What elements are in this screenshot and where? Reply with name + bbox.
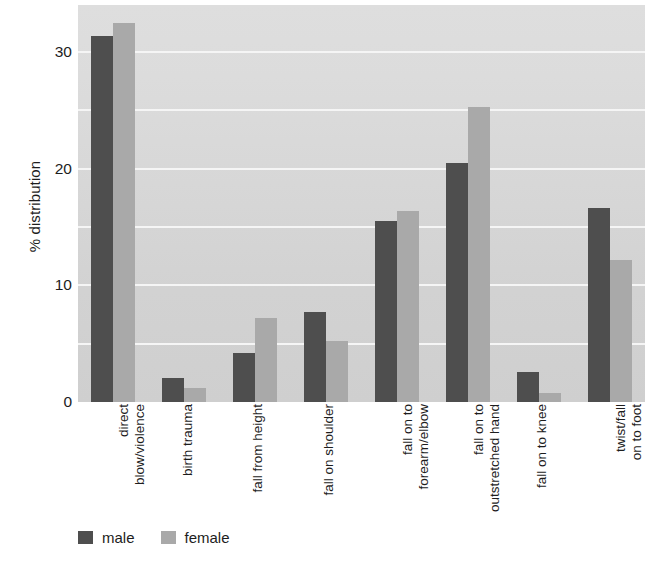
bar-male [375, 221, 397, 402]
bar-group [446, 5, 490, 402]
bar-group [304, 5, 348, 402]
bar-group [233, 5, 277, 402]
bar-group [588, 5, 632, 402]
y-axis-tick-labels: 0102030 [32, 0, 72, 571]
legend-swatch-icon [161, 531, 176, 544]
plot-area [78, 5, 645, 402]
bar-male [446, 163, 468, 402]
bars-layer [78, 5, 645, 402]
x-axis-tick-label: fall on shoulder [321, 404, 337, 524]
x-axis-tick-label: twist/fall on to foot [613, 404, 644, 524]
bar-male [162, 378, 184, 403]
legend: malefemale [78, 529, 230, 546]
y-axis-tick-label: 20 [36, 161, 72, 177]
bar-group [91, 5, 135, 402]
bar-male [517, 372, 539, 402]
legend-label: female [185, 529, 230, 546]
y-axis-tick-label: 10 [36, 277, 72, 293]
bar-male [91, 36, 113, 402]
bar-female [255, 318, 277, 402]
x-axis-tick-label: direct blow/violence [116, 404, 147, 524]
bar-male [304, 312, 326, 402]
x-axis-tick-label: fall from height [250, 404, 266, 524]
y-axis-tick-label: 0 [36, 394, 72, 410]
x-axis-tick-labels: direct blow/violencebirth traumafall fro… [78, 402, 645, 527]
legend-swatch-icon [78, 531, 93, 544]
x-axis-tick-label: fall on to forearm/elbow [400, 404, 431, 524]
y-axis-tick-label: 30 [36, 44, 72, 60]
bar-female [326, 341, 348, 402]
bar-group [517, 5, 561, 402]
bar-male [233, 353, 255, 402]
bar-group [162, 5, 206, 402]
bar-male [588, 208, 610, 402]
bar-female [184, 388, 206, 402]
bar-female [539, 393, 561, 402]
bar-female [113, 23, 135, 402]
bar-female [610, 260, 632, 402]
bar-group [375, 5, 419, 402]
legend-item-female[interactable]: female [161, 529, 230, 546]
bar-female [468, 107, 490, 402]
bar-chart: % distribution 0102030 direct blow/viole… [0, 0, 655, 571]
legend-label: male [102, 529, 135, 546]
x-axis-tick-label: birth trauma [180, 404, 196, 524]
x-axis-tick-label: fall on to outstretched hand [471, 404, 502, 524]
bar-female [397, 211, 419, 402]
x-axis-tick-label: fall on to knee [534, 404, 550, 524]
legend-item-male[interactable]: male [78, 529, 135, 546]
